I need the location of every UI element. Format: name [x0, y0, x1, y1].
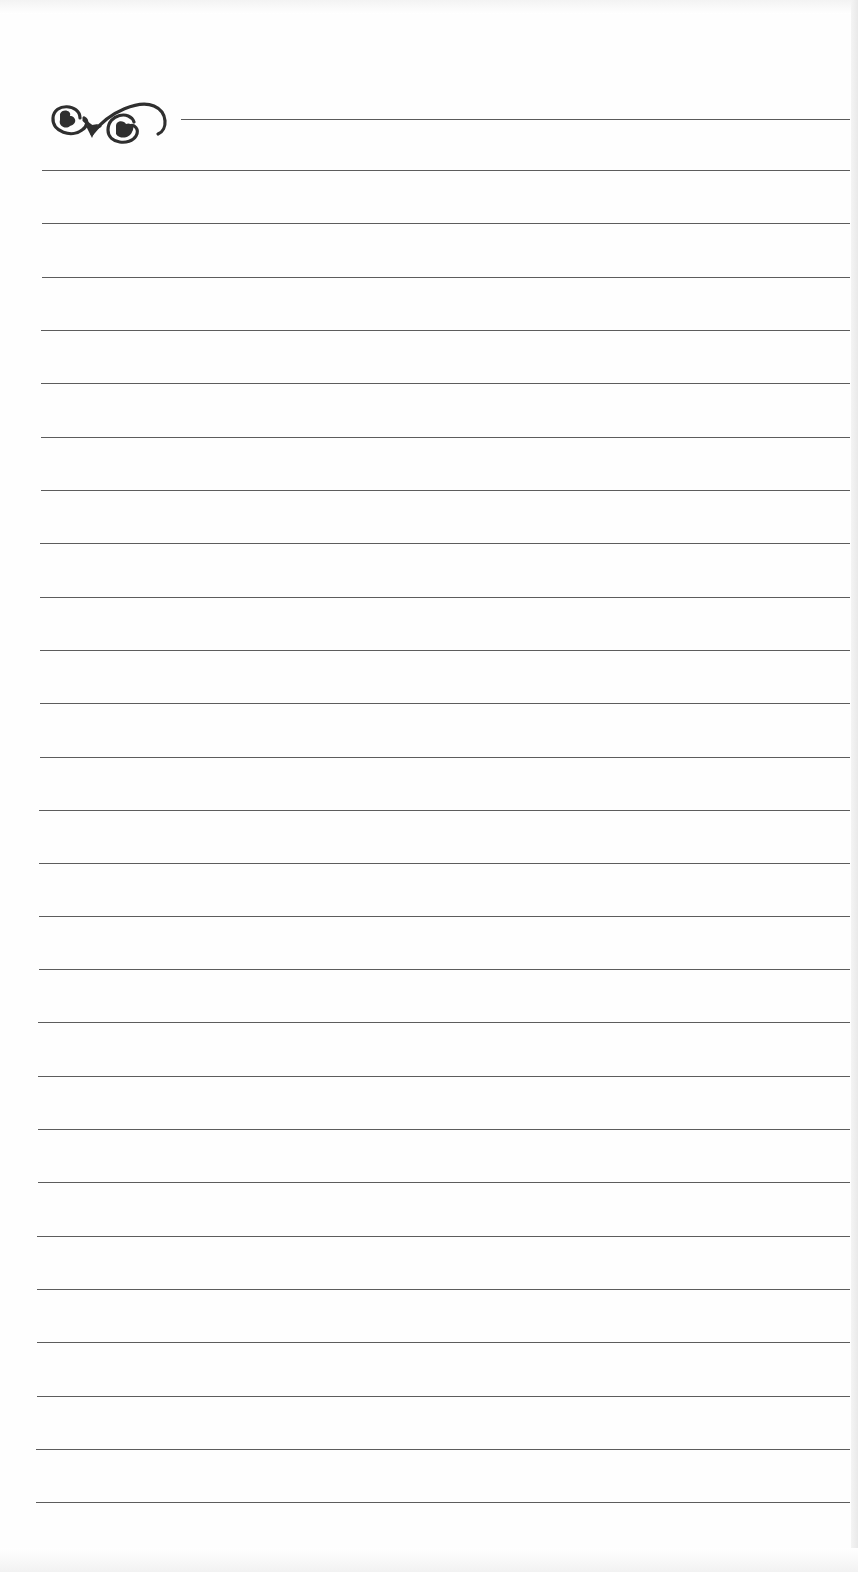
- ruled-line: [37, 1289, 850, 1290]
- ruled-line: [36, 1449, 850, 1450]
- ruled-line: [38, 1022, 850, 1023]
- ruled-line: [36, 1502, 850, 1503]
- ruled-line: [41, 437, 850, 438]
- scroll-flourish-icon: [50, 96, 172, 148]
- ruled-line: [40, 543, 850, 544]
- ruled-line: [39, 969, 850, 970]
- ruled-line: [42, 223, 850, 224]
- ruled-line: [39, 810, 850, 811]
- ruled-line: [38, 1182, 850, 1183]
- ruled-line: [39, 863, 850, 864]
- header-rule: [181, 119, 850, 120]
- ruled-line: [40, 650, 850, 651]
- ruled-line: [37, 1342, 850, 1343]
- ruled-line: [41, 490, 850, 491]
- ruled-line: [39, 916, 850, 917]
- scan-top-shadow: [0, 0, 858, 14]
- ruled-line: [42, 170, 850, 171]
- notepaper-page: [0, 0, 858, 1572]
- ruled-line: [40, 757, 850, 758]
- ruled-line: [42, 277, 850, 278]
- ruled-line: [38, 1129, 850, 1130]
- ruled-line: [38, 1076, 850, 1077]
- page-edge-shadow: [851, 0, 858, 1572]
- ruled-line: [37, 1236, 850, 1237]
- ruled-line: [40, 703, 850, 704]
- ruled-line: [41, 383, 850, 384]
- ruled-line: [41, 330, 850, 331]
- scan-bottom-shadow: [0, 1548, 858, 1572]
- ruled-line: [40, 597, 850, 598]
- ruled-line: [37, 1396, 850, 1397]
